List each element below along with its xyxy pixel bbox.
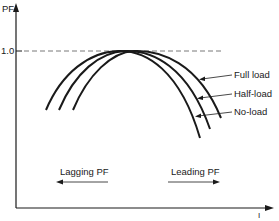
leading-pf-label: Leading PF — [171, 167, 220, 177]
half-load-leader — [200, 94, 232, 98]
full-load-leader-arrow-icon — [199, 77, 205, 82]
x-axis-arrow-icon — [265, 205, 274, 211]
curve-label-no-load: No-load — [234, 107, 267, 117]
leading-arrow-icon — [213, 180, 220, 185]
lagging-pf-label: Lagging PF — [60, 167, 109, 177]
full-load-leader — [202, 75, 232, 79]
curve-label-full-load: Full load — [234, 70, 270, 80]
curve-label-half-load: Half-load — [234, 89, 272, 99]
no-load-leader-arrow-icon — [195, 114, 201, 119]
lagging-arrow-icon — [56, 180, 63, 185]
y-tick-label-1: 1.0 — [1, 46, 14, 56]
y-axis-label: PF — [2, 4, 14, 14]
x-axis-label: I — [258, 212, 260, 220]
curve-no-load — [46, 51, 200, 138]
